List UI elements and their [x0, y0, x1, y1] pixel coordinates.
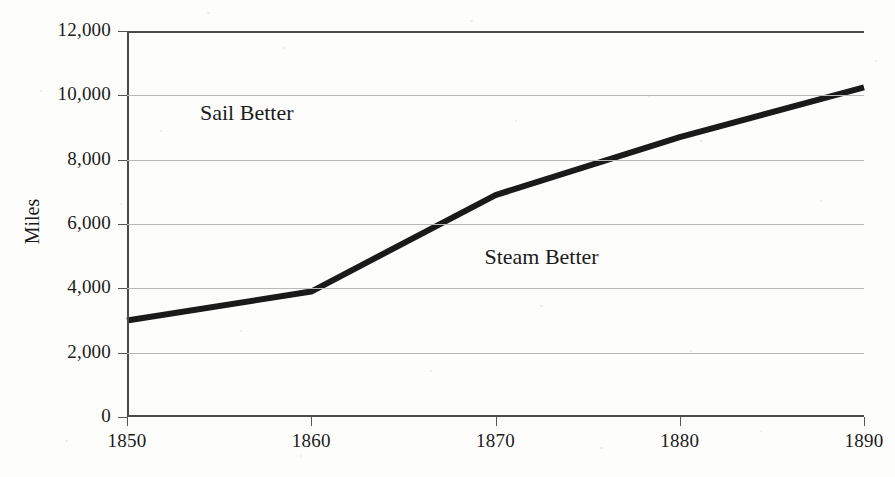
scan-speck	[700, 140, 703, 142]
x-tick-label-1860: 1860	[292, 430, 331, 452]
y-tick-label-10000: 10,000	[0, 83, 111, 105]
scan-speck	[760, 430, 762, 432]
scan-speck	[65, 440, 68, 442]
y-tick-4000	[118, 288, 127, 289]
y-tick-label-12000: 12,000	[0, 19, 111, 41]
x-tick-label-1850: 1850	[108, 430, 147, 452]
y-tick-10000	[118, 95, 127, 96]
x-tick-label-1880: 1880	[660, 430, 699, 452]
y-tick-12000	[118, 31, 127, 32]
gridline-y-8000	[127, 160, 864, 161]
scan-speck	[300, 455, 302, 457]
y-tick-6000	[118, 224, 127, 225]
x-tick-1870	[496, 417, 497, 426]
x-tick-1890	[864, 417, 865, 426]
y-tick-label-6000: 6,000	[0, 212, 111, 234]
gridline-y-6000	[127, 224, 864, 225]
scan-speck	[240, 330, 242, 332]
scan-speck	[690, 350, 692, 352]
x-tick-1850	[127, 417, 128, 426]
gridline-y-4000	[127, 288, 864, 289]
plot-frame-top	[127, 31, 864, 33]
scan-speck	[160, 130, 162, 132]
y-tick-label-8000: 8,000	[0, 148, 111, 170]
x-tick-label-1870: 1870	[476, 430, 515, 452]
y-tick-0	[118, 417, 127, 418]
scan-speck	[283, 47, 285, 49]
annotation-sail-better: Sail Better	[200, 100, 293, 126]
scan-speck	[355, 260, 357, 262]
scan-speck	[648, 96, 650, 98]
x-tick-label-1890: 1890	[845, 430, 884, 452]
plot-area	[127, 31, 864, 417]
y-axis-title: Miles	[21, 182, 44, 262]
scan-speck	[515, 120, 517, 122]
scan-speck	[430, 370, 432, 372]
scan-speck	[470, 20, 473, 22]
scan-speck	[875, 60, 877, 62]
x-tick-1880	[680, 417, 681, 426]
gridline-y-2000	[127, 353, 864, 354]
scan-speck	[120, 203, 122, 205]
x-tick-1860	[311, 417, 312, 426]
scan-speck	[600, 447, 603, 449]
chart-figure: 02,0004,0006,0008,00010,00012,0001850186…	[0, 0, 895, 477]
y-tick-2000	[118, 353, 127, 354]
y-tick-label-4000: 4,000	[0, 276, 111, 298]
scan-speck	[540, 305, 543, 307]
y-tick-label-0: 0	[0, 405, 111, 427]
gridline-y-10000	[127, 95, 864, 96]
annotation-steam-better: Steam Better	[484, 244, 598, 270]
y-tick-8000	[118, 160, 127, 161]
scan-speck	[820, 200, 822, 202]
scan-speck	[207, 12, 210, 14]
y-tick-label-2000: 2,000	[0, 341, 111, 363]
